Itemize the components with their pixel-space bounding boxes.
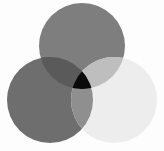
figure-caption bbox=[2, 145, 162, 151]
venn-diagram-canvas bbox=[0, 0, 164, 151]
venn-diagram-figure bbox=[0, 0, 164, 151]
